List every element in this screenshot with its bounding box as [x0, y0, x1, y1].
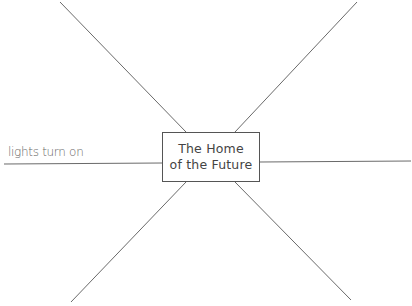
center-topic-box: The Home of the Future: [162, 132, 260, 182]
spoke-right: [260, 161, 411, 162]
spoke-top-right: [235, 2, 357, 132]
center-label-line1: The Home: [178, 141, 244, 157]
center-label-line2: of the Future: [170, 157, 253, 173]
spoke-top-left: [60, 2, 186, 132]
spoke-left: [4, 163, 162, 164]
spoke-bottom-left: [71, 182, 186, 302]
spoke-bottom-right: [235, 182, 351, 300]
spoke-left-text: lights turn on: [8, 145, 83, 159]
